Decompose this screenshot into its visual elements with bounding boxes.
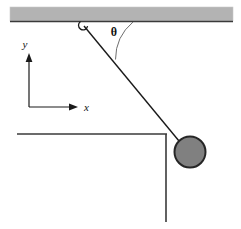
x-axis-arrowhead-icon <box>69 104 78 111</box>
pendulum-diagram: θ y x <box>0 0 241 229</box>
angle-theta-label: θ <box>111 25 117 39</box>
pendulum-string <box>84 26 179 141</box>
y-axis-arrowhead-icon <box>26 53 33 62</box>
ceiling-slab <box>10 7 233 21</box>
x-axis-label: x <box>83 101 89 113</box>
y-axis-label: y <box>22 38 28 50</box>
angle-arc <box>116 22 134 60</box>
diagram-canvas: θ y x <box>0 0 241 229</box>
pendulum-bob <box>175 137 206 168</box>
